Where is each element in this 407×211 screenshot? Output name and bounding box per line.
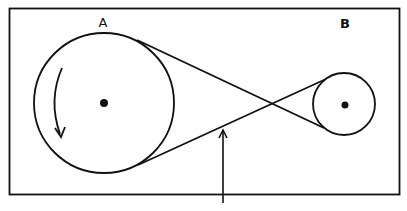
pulley-a-axle [100, 99, 108, 107]
pulley-a-label: A [99, 15, 108, 30]
crossed-belt [137, 40, 326, 165]
pulley-b-label: B [340, 16, 350, 31]
pointer-arrow [219, 130, 227, 203]
belt-upper-strand [137, 40, 324, 128]
pulley-b: B [313, 16, 375, 135]
pulley-a: A [34, 15, 174, 173]
frame [10, 9, 400, 195]
belt-drive-diagram: A B [0, 0, 407, 211]
pulley-b-axle [342, 102, 349, 109]
belt-lower-strand [138, 79, 326, 165]
rotation-arrow [54, 68, 62, 134]
